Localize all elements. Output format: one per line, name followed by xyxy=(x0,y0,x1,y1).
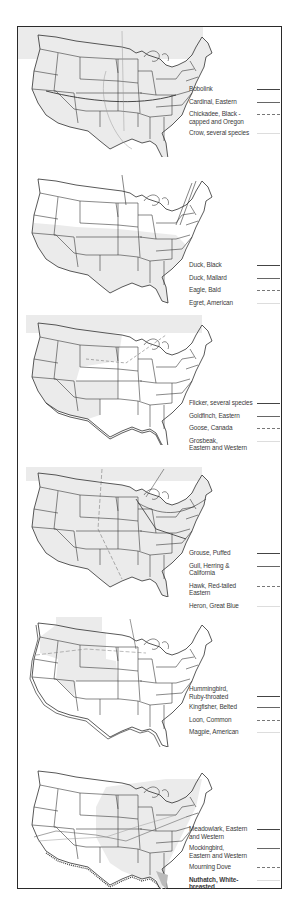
range-map-panel-3: Flicker, several species Goldfinch, East… xyxy=(18,315,280,445)
range-map-panel-5: Hummingbird, Ruby-throated Kingfisher, B… xyxy=(18,617,280,747)
legend-item: Meadowlark, Eastern and Western xyxy=(189,825,281,840)
legend-item: Mockingbird, Eastern and Western xyxy=(189,844,281,859)
legend-item: Duck, Mallard xyxy=(189,274,281,282)
legend-item: Loon, Common xyxy=(189,716,281,724)
legend-item: Hummingbird, Ruby-throated xyxy=(189,685,281,700)
legend-6: Meadowlark, Eastern and Western Mockingb… xyxy=(189,825,281,891)
legend-2: Duck, Black Duck, Mallard Eagle, Bald Eg… xyxy=(189,261,281,306)
range-map-panel-6: Meadowlark, Eastern and Western Mockingb… xyxy=(18,765,280,889)
legend-item: Eagle, Bald xyxy=(189,286,281,294)
legend-item: Kingfisher, Belted xyxy=(189,703,281,711)
legend-item: Goose, Canada xyxy=(189,424,281,432)
legend-item: Mourning Dove xyxy=(189,863,281,871)
legend-item: Duck, Black xyxy=(189,261,281,269)
legend-item: Egret, American xyxy=(189,299,281,307)
legend-item: Cardinal, Eastern xyxy=(189,98,281,106)
range-map-panel-2: Duck, Black Duck, Mallard Eagle, Bald Eg… xyxy=(18,175,280,305)
legend-1: Bobolink Cardinal, Eastern Chickadee, Bl… xyxy=(189,85,281,137)
legend-item: Crow, several species xyxy=(189,129,281,137)
legend-3: Flicker, several species Goldfinch, East… xyxy=(189,399,281,452)
legend-item: Hawk, Red-tailed Eastern xyxy=(189,582,281,597)
legend-item: Nuthatch, White-breasted xyxy=(189,876,281,891)
legend-item: Grosbeak, Eastern and Western xyxy=(189,437,281,452)
legend-item: Goldfinch, Eastern xyxy=(189,412,281,420)
map-frame: Bobolink Cardinal, Eastern Chickadee, Bl… xyxy=(17,26,282,889)
range-map-panel-4: Grouse, Puffed Gull, Herring & Californi… xyxy=(18,467,280,597)
legend-item: Heron, Great Blue xyxy=(189,602,281,610)
legend-5: Hummingbird, Ruby-throated Kingfisher, B… xyxy=(189,685,281,736)
legend-item: Bobolink xyxy=(189,85,281,93)
legend-4: Grouse, Puffed Gull, Herring & Californi… xyxy=(189,549,281,609)
legend-item: Magpie, American xyxy=(189,728,281,736)
legend-item: Flicker, several species xyxy=(189,399,281,407)
range-map-panel-1: Bobolink Cardinal, Eastern Chickadee, Bl… xyxy=(18,27,280,157)
legend-item: Chickadee, Black - capped and Oregon xyxy=(189,110,281,125)
legend-item: Grouse, Puffed xyxy=(189,549,281,557)
legend-item: Gull, Herring & California xyxy=(189,562,281,577)
